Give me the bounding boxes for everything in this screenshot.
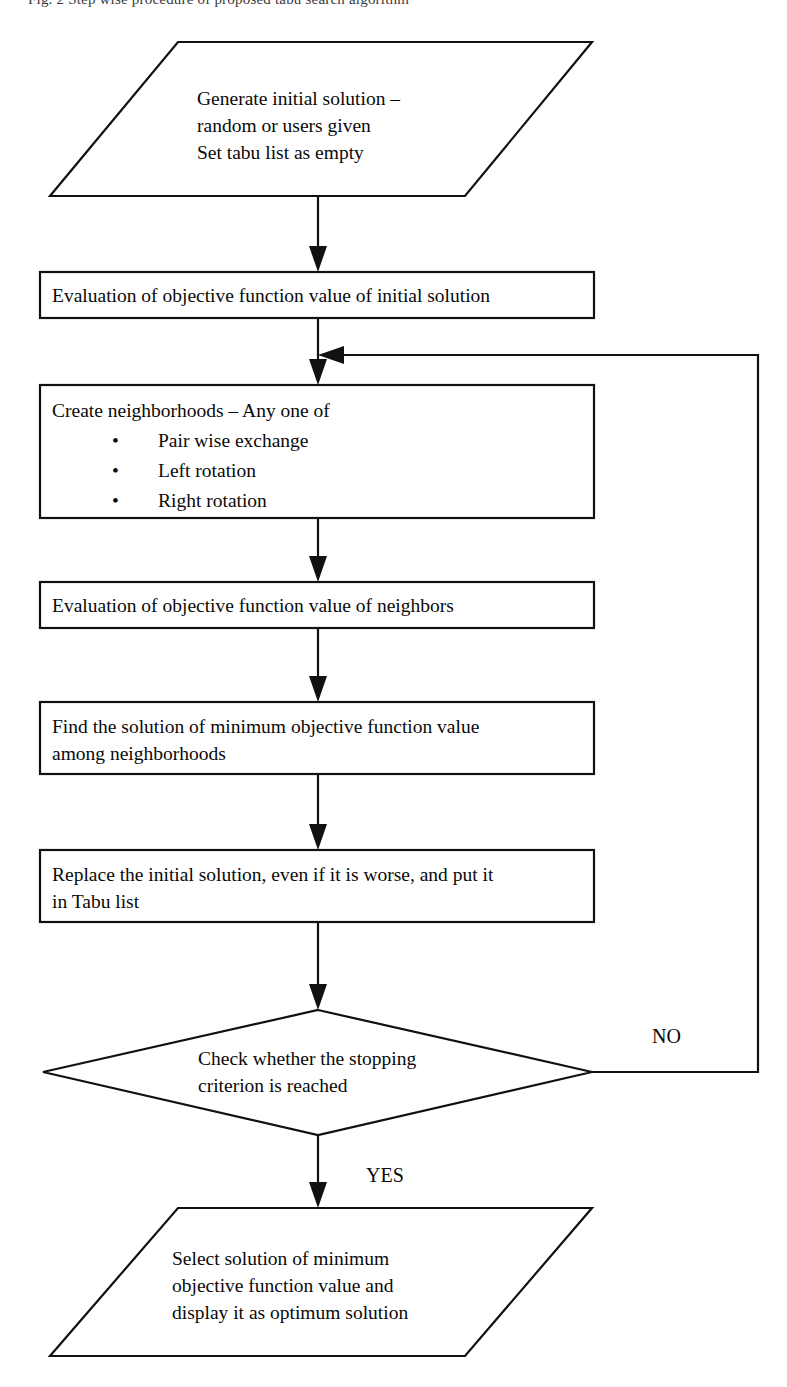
node-replace[interactable]: Replace the initial solution, even if it… [40,850,594,922]
connector-start-to-eval-initial [309,196,327,272]
node-start[interactable]: Generate initial solution – random or us… [50,42,592,196]
node-end-line-1: Select solution of minimum [172,1248,389,1269]
node-eval-neighbors[interactable]: Evaluation of objective function value o… [40,582,594,628]
node-end[interactable]: Select solution of minimum objective fun… [50,1208,592,1356]
bullet-glyph-3: • [112,490,119,511]
bullet-glyph-1: • [112,430,119,451]
node-decision-line-1: Check whether the stopping [198,1048,416,1069]
arrowhead-icon [309,824,327,850]
node-find-min[interactable]: Find the solution of minimum objective f… [40,702,594,774]
connector-replace-to-decision [309,922,327,1010]
connector-eval-neighbors-to-find-min [309,628,327,702]
arrowhead-icon [309,676,327,702]
node-create-bullet-3: Right rotation [158,490,267,511]
node-decision-line-2: criterion is reached [198,1075,348,1096]
diamond-decision-shape [43,1010,592,1135]
node-replace-line-1: Replace the initial solution, even if it… [52,864,494,885]
node-eval-neighbors-line-1: Evaluation of objective function value o… [52,595,454,616]
arrowhead-icon [309,1182,327,1208]
node-eval-initial[interactable]: Evaluation of objective function value o… [40,272,594,318]
arrowhead-icon [309,556,327,582]
node-create-bullet-2: Left rotation [158,460,256,481]
bullet-glyph-2: • [112,460,119,481]
node-start-line-3: Set tabu list as empty [197,142,364,163]
node-end-line-2: objective function value and [172,1275,394,1296]
connector-decision-yes-to-end: YES [309,1135,404,1208]
node-replace-line-2: in Tabu list [52,891,140,912]
arrowhead-icon [309,246,327,272]
node-create-heading: Create neighborhoods – Any one of [52,400,330,421]
node-end-line-3: display it as optimum solution [172,1302,408,1323]
node-eval-initial-line-1: Evaluation of objective function value o… [52,285,490,306]
node-start-line-1: Generate initial solution – [197,88,400,109]
node-find-min-line-1: Find the solution of minimum objective f… [52,716,479,737]
arrowhead-icon [309,359,327,385]
node-create-neighborhoods[interactable]: Create neighborhoods – Any one of • Pair… [40,385,594,518]
connector-eval-initial-to-create [309,318,327,385]
arrowhead-icon [309,984,327,1010]
branch-label-yes: YES [366,1164,404,1186]
flowchart-canvas: Generate initial solution – random or us… [0,0,787,1387]
node-decision[interactable]: Check whether the stopping criterion is … [43,1010,592,1135]
node-create-bullet-1: Pair wise exchange [158,430,309,451]
branch-label-no: NO [652,1025,681,1047]
node-start-line-2: random or users given [197,115,371,136]
connector-create-to-eval-neighbors [309,518,327,582]
node-find-min-line-2: among neighborhoods [52,743,226,764]
connector-find-min-to-replace [309,774,327,850]
